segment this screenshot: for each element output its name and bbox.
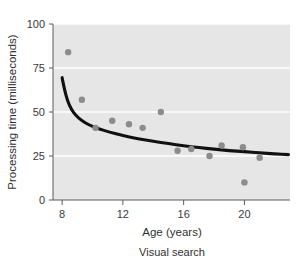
data-point <box>158 109 164 115</box>
y-tick-labels-group: 0255075100 <box>27 18 45 206</box>
x-tick-label-8: 8 <box>59 208 65 220</box>
x-tick-label-12: 12 <box>117 208 129 220</box>
data-point <box>240 144 246 150</box>
y-tick-label-25: 25 <box>33 150 45 162</box>
x-tick-label-16: 16 <box>178 208 190 220</box>
y-tick-label-0: 0 <box>39 194 45 206</box>
data-point <box>109 118 115 124</box>
data-point <box>79 96 85 102</box>
data-point <box>65 49 71 55</box>
y-tick-label-100: 100 <box>27 18 45 30</box>
y-tick-label-75: 75 <box>33 62 45 74</box>
data-point <box>218 142 224 148</box>
x-axis <box>53 200 290 205</box>
data-point <box>139 125 145 131</box>
data-point <box>174 148 180 154</box>
data-point <box>206 153 212 159</box>
data-point <box>256 155 262 161</box>
y-tick-label-50: 50 <box>33 106 45 118</box>
chart-caption: Visual search <box>139 246 205 258</box>
y-axis <box>49 24 53 200</box>
data-point <box>241 179 247 185</box>
x-tick-label-20: 20 <box>238 208 250 220</box>
x-tick-labels-group: 8121620 <box>59 208 250 220</box>
y-axis-title: Processing time (milliseconds) <box>6 34 18 189</box>
data-point <box>92 125 98 131</box>
data-point <box>126 121 132 127</box>
data-point <box>188 146 194 152</box>
scatter-plot-svg: 0255075100 8121620 Processing time (mill… <box>0 0 296 271</box>
x-axis-title: Age (years) <box>142 226 202 238</box>
chart-figure: 0255075100 8121620 Processing time (mill… <box>0 0 296 271</box>
